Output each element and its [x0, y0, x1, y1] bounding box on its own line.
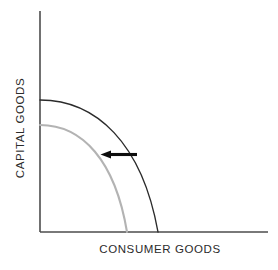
arrow-head-icon	[101, 150, 112, 158]
x-axis-label: CONSUMER GOODS	[99, 243, 221, 255]
ppf-curve-original	[40, 100, 158, 232]
ppf-curve-shifted	[40, 125, 127, 232]
ppf-chart-canvas: CAPITAL GOODS CONSUMER GOODS	[0, 0, 278, 270]
y-axis-label: CAPITAL GOODS	[14, 78, 26, 178]
ppf-figure: CAPITAL GOODS CONSUMER GOODS	[0, 0, 278, 270]
